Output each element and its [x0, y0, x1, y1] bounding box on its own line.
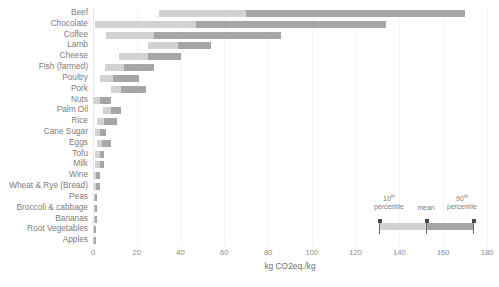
category-label: Coffee [64, 29, 88, 40]
x-tick-label-160: 160 [437, 248, 450, 257]
category-label: Rice [71, 115, 88, 126]
x-axis-title: kg CO2eq./kg [93, 261, 487, 271]
ghg-emissions-chart: BeefChocolateCoffeeLambCheeseFish (farme… [0, 0, 499, 287]
low-segment [106, 32, 154, 39]
bar-row: Cane Sugar [93, 127, 487, 138]
range-bar [93, 226, 95, 233]
legend-p90-label: 90th percentile [437, 195, 487, 211]
high-segment [94, 237, 95, 244]
bar-row: Tofu [93, 149, 487, 160]
range-bar [95, 161, 104, 168]
x-tick-label-180: 180 [481, 248, 494, 257]
category-label: Milk [73, 158, 88, 169]
high-segment [102, 140, 111, 147]
high-segment [154, 32, 281, 39]
bar-row: Wine [93, 170, 487, 181]
category-label: Tofu [72, 148, 88, 159]
low-segment [111, 86, 122, 93]
legend-marker-p10 [379, 219, 380, 234]
bar-row: Eggs [93, 138, 487, 149]
bar-row: Pork [93, 84, 487, 95]
x-tick-label-100: 100 [306, 248, 319, 257]
category-label: Wine [69, 169, 88, 180]
x-tick-label-60: 60 [220, 248, 228, 257]
range-bar [93, 97, 111, 104]
category-label: Broccoli & cabbage [17, 202, 89, 213]
bar-row: Milk [93, 159, 487, 170]
high-segment [95, 216, 97, 223]
high-segment [100, 151, 104, 158]
category-label: Bananas [55, 213, 88, 224]
x-tick-label-120: 120 [349, 248, 362, 257]
high-segment [104, 118, 117, 125]
high-segment [95, 194, 97, 201]
category-label: Chocolate [51, 18, 88, 29]
range-bar [97, 140, 110, 147]
legend-p90-word: percentile [447, 203, 477, 210]
range-bar [148, 42, 211, 49]
range-bar [100, 75, 139, 82]
legend-p10-word: percentile [374, 203, 404, 210]
range-bar [105, 64, 154, 71]
legend-p10-label: 10th percentile [365, 195, 413, 211]
low-segment [103, 107, 111, 114]
bar-row: Chocolate [93, 19, 487, 30]
legend-marker-mean [426, 219, 427, 234]
range-bar [94, 172, 99, 179]
legend-p90-value: 90 [456, 195, 464, 202]
category-label: Nuts [71, 94, 88, 105]
category-label: Eggs [69, 137, 88, 148]
high-segment [100, 161, 104, 168]
x-tick-label-40: 40 [176, 248, 184, 257]
bar-row: Fish (farmed) [93, 62, 487, 73]
legend-p10-value: 10 [383, 195, 391, 202]
bar-row: Rice [93, 116, 487, 127]
range-bar [94, 205, 98, 212]
bar-row: Palm Oil [93, 105, 487, 116]
range-bar [95, 129, 106, 136]
legend-p90-sup: th [464, 193, 468, 199]
high-segment [96, 183, 99, 190]
low-segment [159, 10, 247, 17]
range-bar [94, 216, 97, 223]
bar-row: Cheese [93, 51, 487, 62]
category-label: Beef [71, 7, 88, 18]
legend-low-segment [379, 223, 426, 230]
high-segment [111, 107, 122, 114]
high-segment [121, 86, 145, 93]
legend-p10-sup: th [391, 193, 395, 199]
category-label: Root Vegetables [27, 223, 88, 234]
high-segment [148, 53, 181, 60]
range-bar [95, 21, 386, 28]
range-bar [93, 237, 95, 244]
high-segment [100, 97, 111, 104]
bar-row: Nuts [93, 95, 487, 106]
bar-row: Beef [93, 8, 487, 19]
category-label: Apples [63, 234, 88, 245]
high-segment [196, 21, 386, 28]
range-bar [106, 32, 281, 39]
bar-row: Poultry [93, 73, 487, 84]
bar-row: Lamb [93, 40, 487, 51]
range-bar [94, 183, 99, 190]
category-label: Cheese [59, 50, 88, 61]
category-label: Peas [69, 191, 88, 202]
high-segment [95, 205, 97, 212]
low-segment [95, 21, 196, 28]
high-segment [94, 226, 95, 233]
category-label: Fish (farmed) [39, 61, 88, 72]
chart-legend: 10th percentile mean 90th percentile [363, 195, 489, 241]
range-bar [111, 86, 146, 93]
range-bar [97, 118, 117, 125]
x-tick-label-80: 80 [264, 248, 272, 257]
legend-marker-p90 [473, 219, 474, 234]
range-bar [95, 151, 104, 158]
range-bar [103, 107, 122, 114]
bar-row: Coffee [93, 30, 487, 41]
category-label: Wheat & Rye (Bread) [9, 180, 88, 191]
low-segment [105, 64, 124, 71]
high-segment [100, 129, 107, 136]
low-segment [119, 53, 147, 60]
x-tick-label-140: 140 [393, 248, 406, 257]
high-segment [124, 64, 155, 71]
